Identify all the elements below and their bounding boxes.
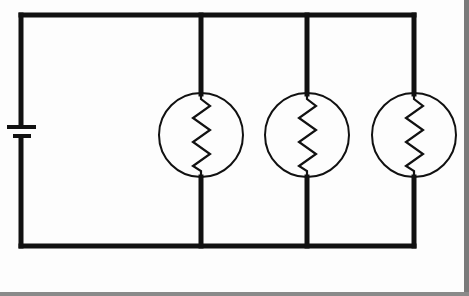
bulb-3-icon (372, 93, 456, 177)
wires (21, 15, 414, 246)
bulb-2-icon (265, 93, 349, 177)
circuit-diagram: Battery connected to three identical lig… (0, 0, 469, 296)
circuit-canvas (0, 0, 469, 296)
battery-icon (7, 127, 36, 136)
frame-edge-right (464, 0, 469, 296)
bulb-1-icon (159, 93, 243, 177)
frame-edge-bottom (0, 292, 469, 296)
